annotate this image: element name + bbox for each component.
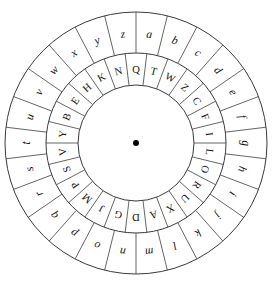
cipher-wheel[interactable]: abcdefghijklmnopqrstuvwxyz QTWZCFILORUXA…	[0, 0, 275, 291]
outer-letter-g[interactable]: g	[239, 140, 252, 146]
cipher-wheel-svg[interactable]: abcdefghijklmnopqrstuvwxyz QTWZCFILORUXA…	[0, 0, 275, 291]
inner-letter-D[interactable]: D	[132, 212, 140, 223]
inner-letter-L[interactable]: L	[204, 148, 216, 156]
wheel-root: abcdefghijklmnopqrstuvwxyz QTWZCFILORUXA…	[5, 12, 267, 274]
pivot-dot	[133, 140, 139, 146]
inner-letter-Q[interactable]: Q	[132, 64, 140, 75]
outer-letter-m[interactable]: m	[144, 246, 154, 259]
